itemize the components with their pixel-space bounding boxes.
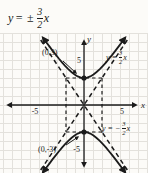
vertex-lower xyxy=(81,129,86,134)
title-x: x xyxy=(44,11,50,26)
lower-asymptote-den: 2 xyxy=(122,129,125,136)
upper-asymptote-var: x xyxy=(123,53,127,62)
figure: y = ± 3 2 x xyxy=(0,0,148,173)
upper-asymptote-den: 2 xyxy=(119,58,122,65)
x-tick-5: 5 xyxy=(120,107,124,116)
vertex-upper xyxy=(81,75,86,80)
title-denominator: 2 xyxy=(37,19,43,30)
y-axis-label: y xyxy=(86,34,91,44)
lower-asymptote-lhs: y = − xyxy=(102,124,120,133)
y-tick-neg5: -5 xyxy=(73,145,80,154)
title-equals: = xyxy=(16,11,23,26)
lower-asymptote-var: x xyxy=(127,124,131,133)
equation-title: y = ± 3 2 x xyxy=(8,4,50,32)
upper-asymptote-lhs: y = xyxy=(106,53,117,62)
upper-asymptote-label: y = 3 2 x xyxy=(106,50,127,65)
lower-asymptote-fraction: 3 2 xyxy=(122,121,125,136)
upper-asymptote-num: 3 xyxy=(119,49,122,56)
x-tick-neg5: -5 xyxy=(32,107,39,116)
plus-minus-sign: ± xyxy=(27,11,34,26)
upper-asymptote-fraction: 3 2 xyxy=(119,50,122,65)
lower-asymptote-num: 3 xyxy=(122,120,125,127)
y-tick-5: 5 xyxy=(77,56,81,65)
vertex-upper-label: (0,3) xyxy=(42,48,57,57)
title-y: y xyxy=(8,11,14,26)
title-numerator: 3 xyxy=(37,6,43,17)
title-fraction: 3 2 xyxy=(37,7,43,30)
vertex-lower-label: (0,-3) xyxy=(38,145,56,154)
x-axis-label: x xyxy=(140,100,145,110)
lower-asymptote-label: y = − 3 2 x xyxy=(102,121,130,136)
graph-area: x y -5 5 5 -5 (0,3) (0,-3) y = 3 2 x y =… xyxy=(0,33,148,173)
